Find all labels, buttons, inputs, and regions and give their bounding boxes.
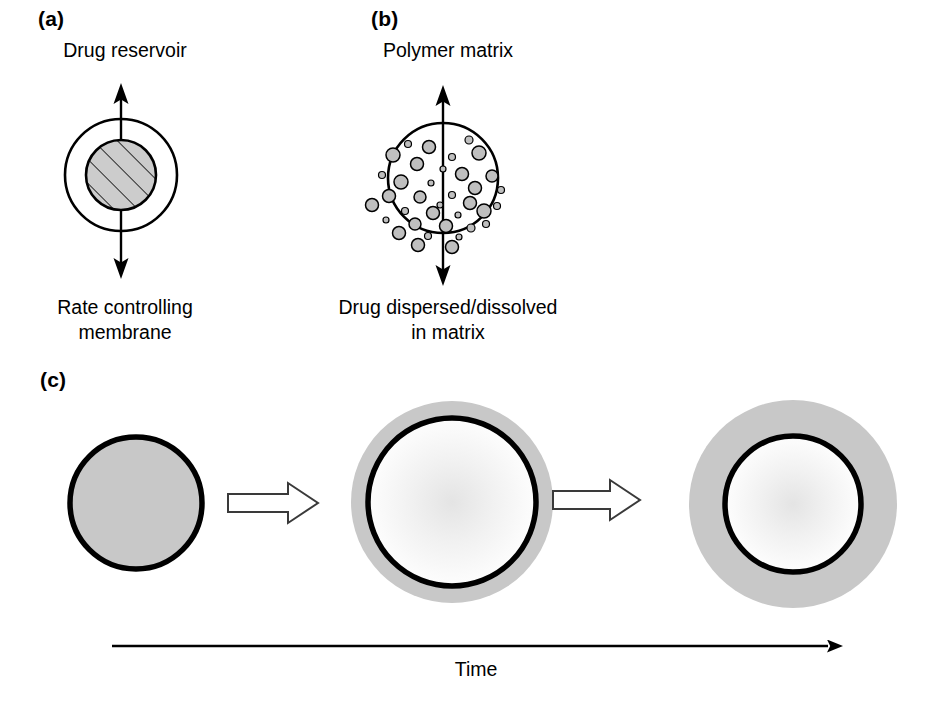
panel-b-polymer-matrix-circle [388,123,498,233]
drug-particle [449,154,456,161]
drug-particle [379,172,386,179]
transition-arrow-2 [553,480,640,520]
drug-particle [498,187,505,194]
drug-particle [383,217,389,223]
panel-b-top-caption: Polymer matrix [323,38,573,63]
panel-a-release-arrow [114,83,129,279]
drug-particle [411,158,424,171]
drug-particle [383,190,396,203]
drug-particle [455,212,461,218]
drug-particle [405,141,412,148]
drug-particle [425,233,432,240]
drug-particle [437,202,443,208]
drug-particle [423,141,436,154]
stage-2-core [368,418,536,586]
drug-particle [486,170,498,182]
drug-particle [394,175,408,189]
panel-a-graphic [65,83,177,279]
drug-particle [449,192,456,199]
drug-particle [446,241,459,254]
drug-particle [469,182,482,195]
panel-label-b: (b) [371,8,398,29]
drug-particle [465,136,473,144]
drug-particle [393,227,406,240]
drug-particle [428,180,434,186]
panel-label-c: (c) [40,369,66,390]
stage-2-gray-shell [351,401,553,603]
stage-3-gray-shell [689,400,897,608]
drug-particle [440,220,453,233]
time-axis-label: Time [396,658,556,680]
drug-particle [494,203,501,210]
panel-c-graphic [70,400,897,646]
figure-root: (a) Drug reservoir Rate controlling memb… [0,0,932,706]
drug-particle [456,168,469,181]
stage-3-advanced-erosion [689,400,897,608]
drug-particle [409,218,421,230]
panel-b-drug-particles [366,136,505,254]
drug-particle [427,207,440,220]
drug-particle [464,197,477,210]
drug-particle [467,224,475,232]
drug-particle [477,204,491,218]
drug-particle [483,221,490,228]
panel-a-bottom-caption: Rate controlling membrane [0,295,250,345]
panel-label-a: (a) [38,8,64,29]
panel-a-drug-reservoir-core [86,140,156,210]
panel-a-outer-membrane-circle [65,119,177,231]
panel-b-graphic [366,85,505,286]
drug-particle [456,234,462,240]
stage-1-solid-core [70,437,202,569]
drug-particle [440,166,446,172]
stage-2-partial-erosion [351,401,553,603]
drug-particle [386,148,400,162]
transition-arrow-1 [228,483,318,523]
panel-b-bottom-caption: Drug dispersed/dissolved in matrix [303,295,593,345]
diagram-canvas [0,0,932,706]
panel-b-release-arrow [436,85,451,286]
drug-particle [472,146,486,160]
drug-particle [412,239,425,252]
panel-a-top-caption: Drug reservoir [0,38,250,63]
drug-particle [366,199,379,212]
drug-particle [402,208,409,215]
stage-3-core [725,436,861,572]
drug-particle [414,191,426,203]
